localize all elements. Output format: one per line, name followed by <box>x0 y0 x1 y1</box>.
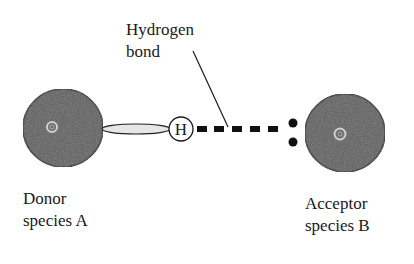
hydrogen-bond-label-line2: bond <box>126 41 194 63</box>
label-leader-line <box>193 51 228 127</box>
lone-pair-dots <box>289 119 298 147</box>
donor-label-line2: species A <box>23 210 88 232</box>
donor-sphere <box>23 89 103 167</box>
hydrogen-atom-label: H <box>175 120 187 139</box>
covalent-bond-ellipse <box>102 124 170 134</box>
acceptor-label-line2: species B <box>305 215 370 237</box>
hydrogen-bond-dashes <box>197 126 278 132</box>
donor-label-line1: Donor <box>23 188 88 210</box>
hydrogen-bond-label: Hydrogen bond <box>126 19 194 63</box>
acceptor-label-line1: Acceptor <box>305 193 370 215</box>
donor-label: Donor species A <box>23 188 88 232</box>
acceptor-sphere <box>305 94 385 172</box>
hydrogen-bond-label-line1: Hydrogen <box>126 19 194 41</box>
acceptor-label: Acceptor species B <box>305 193 370 237</box>
hydrogen-atom: H <box>169 117 193 141</box>
